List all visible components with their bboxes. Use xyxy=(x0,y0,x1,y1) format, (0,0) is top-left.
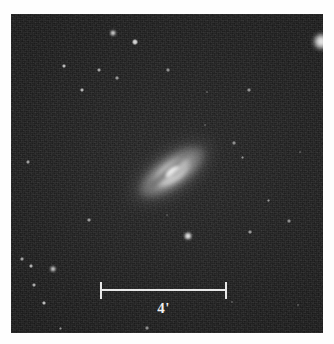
sky-background xyxy=(11,14,323,333)
astronomy-figure: 4' xyxy=(0,0,334,344)
sky-image-plate: 4' xyxy=(11,14,323,333)
